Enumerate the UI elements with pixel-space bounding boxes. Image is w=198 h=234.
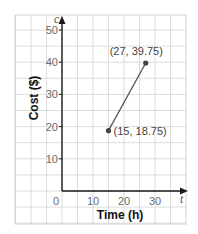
y-tick-label: 10	[46, 153, 58, 165]
data-point-label: (27, 39.75)	[110, 45, 163, 57]
x-tick-label: 20	[118, 195, 130, 207]
x-tick-label: 30	[149, 195, 161, 207]
x-tick-label: 0	[53, 195, 59, 207]
y-tick-label: 20	[46, 121, 58, 133]
chart-svg: 01020301020304050 (15, 18.75)(27, 39.75)…	[0, 0, 198, 234]
y-tick-label: 30	[46, 88, 58, 100]
data-point	[143, 60, 148, 65]
data-point	[106, 128, 111, 133]
y-variable-label: c	[54, 12, 60, 26]
data-point-label: (15, 18.75)	[114, 125, 167, 137]
x-axis-title: Time (h)	[97, 208, 143, 222]
x-tick-label: 10	[87, 195, 99, 207]
y-tick-label: 40	[46, 56, 58, 68]
y-axis-title: Cost ($)	[27, 76, 41, 121]
